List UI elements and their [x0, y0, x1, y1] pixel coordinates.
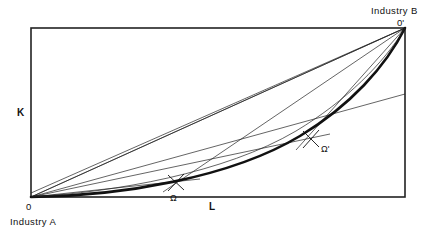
edgeworth-box-figure: Industry B 0' Industry A 0 K L Ω Ω'	[0, 0, 442, 233]
ray-a-upper	[31, 94, 405, 197]
k-axis-label: K	[17, 108, 24, 118]
ray-b-lower	[31, 28, 405, 193]
ray-b-to-omega	[163, 28, 405, 192]
industry-b-label: Industry B	[371, 6, 418, 16]
diagram-canvas	[0, 0, 442, 233]
l-axis-label: L	[209, 202, 215, 212]
origin-a-label: 0	[26, 202, 31, 212]
origin-b-label: 0'	[397, 18, 404, 28]
omega-prime-label: Ω'	[321, 145, 329, 154]
ray-b-to-omega-prime	[296, 28, 405, 150]
omega-label: Ω	[170, 194, 177, 203]
industry-a-label: Industry A	[10, 217, 56, 227]
